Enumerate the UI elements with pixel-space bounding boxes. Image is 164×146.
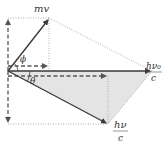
incident-photon-label-num: hν₀ bbox=[146, 61, 161, 71]
electron-momentum-label: mv bbox=[34, 3, 49, 14]
incident-photon-label-den: c bbox=[151, 73, 156, 83]
compton-diagram: mv ϕ θ hν₀ c hν c bbox=[0, 0, 164, 146]
theta-label: θ bbox=[30, 76, 36, 86]
scattered-photon-label-num: hν bbox=[114, 119, 127, 130]
scattered-photon-label-den: c bbox=[118, 133, 123, 143]
electron-momentum-vector bbox=[8, 20, 48, 71]
phi-label: ϕ bbox=[20, 54, 26, 64]
phi-angle-arc bbox=[14, 63, 18, 71]
